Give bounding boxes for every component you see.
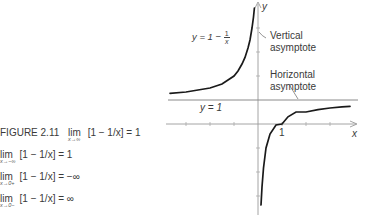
hline-label: y = 1 [200, 102, 222, 113]
limit-3-expression: [1 − 1/x] = −∞ [20, 171, 80, 182]
limit-4-expression: [1 − 1/x] = ∞ [20, 193, 74, 204]
curve-equation-prefix: y = 1 − [192, 31, 224, 42]
curve-right-branch [261, 106, 350, 205]
y-axis-label: y [262, 1, 267, 12]
x-tick-label-1: 1 [279, 127, 285, 138]
fraction-numerator: 1 [224, 30, 230, 38]
vertical-asymptote-leader [259, 32, 266, 38]
limit-2-expression: [1 − 1/x] = 1 [20, 149, 73, 160]
limit-3-operator: limx→0+ [0, 171, 13, 182]
limit-4-operator: limx→0− [0, 193, 13, 204]
caption-row: FIGURE 2.11 limx→∞ [1 − 1/x] = 1 [0, 127, 140, 138]
graph [0, 0, 368, 221]
vertical-asymptote-label-1: Vertical [270, 30, 303, 41]
curve-left-branch [170, 8, 254, 93]
lim-subscript: x→∞ [68, 136, 80, 142]
lim-subscript: x→−∞ [0, 158, 15, 164]
limit-2-operator: limx→−∞ [0, 149, 13, 160]
lim-subscript: x→0− [0, 202, 15, 208]
limit-row-2: limx→−∞ [1 − 1/x] = 1 [0, 149, 72, 160]
x-axis-label: x [352, 128, 357, 139]
curve-equation-fraction: 1x [224, 30, 230, 45]
fraction-denominator: x [224, 38, 230, 45]
limit-1-expression: [1 − 1/x] = 1 [88, 127, 141, 138]
limit-1-operator: limx→∞ [68, 127, 81, 138]
lim-subscript: x→0+ [0, 180, 15, 186]
figure-label: FIGURE 2.11 [0, 127, 59, 138]
horizontal-asymptote-label-1: Horizontal [270, 69, 315, 80]
limit-row-3: limx→0+ [1 − 1/x] = −∞ [0, 171, 80, 182]
vertical-asymptote-label-2: asymptote [270, 42, 316, 53]
horizontal-asymptote-label-2: asymptote [270, 81, 316, 92]
limit-row-4: limx→0− [1 − 1/x] = ∞ [0, 193, 74, 204]
curve-equation-label: y = 1 − 1x [192, 30, 230, 45]
